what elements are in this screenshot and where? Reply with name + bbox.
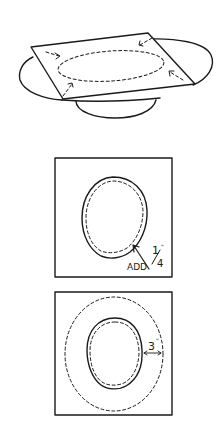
- add-label: ADD: [127, 262, 147, 272]
- paper-square: [31, 33, 195, 99]
- plate-foot: [76, 100, 156, 118]
- plate-figure: [20, 33, 213, 118]
- inch-mark-2: ": [156, 337, 159, 344]
- plate-rim-bottom: [62, 98, 160, 101]
- paper-frame-2: [55, 292, 172, 415]
- inch-mark: ": [161, 243, 164, 250]
- fraction-denominator: 4: [157, 258, 163, 269]
- inner-oval: [87, 318, 142, 389]
- traced-oval-figure: ADD 1 4 ": [55, 158, 172, 277]
- inner-dashed-oval: [90, 322, 139, 385]
- seam-line-oval: [86, 181, 143, 253]
- outer-margin-figure: 3 ": [55, 292, 172, 415]
- outer-dashed-oval: [65, 297, 163, 411]
- three-inch-label: 3: [148, 340, 155, 353]
- diagram-canvas: ADD 1 4 " 3 ": [0, 0, 221, 426]
- fraction-numerator: 1: [152, 244, 159, 257]
